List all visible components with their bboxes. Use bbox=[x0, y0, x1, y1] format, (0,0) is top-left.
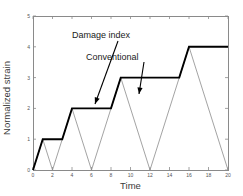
annotation-arrows bbox=[95, 41, 144, 104]
axis-ticks bbox=[33, 16, 228, 170]
x-tick-label: 0 bbox=[27, 172, 39, 178]
arrow-head-0 bbox=[95, 97, 100, 104]
x-tick-label: 14 bbox=[164, 172, 176, 178]
data-series bbox=[33, 47, 228, 170]
x-tick-label: 10 bbox=[125, 172, 137, 178]
x-axis-title: Time bbox=[33, 180, 228, 192]
y-tick-label: 2 bbox=[18, 105, 30, 111]
y-axis-title: Normalized strain bbox=[0, 0, 14, 196]
x-tick-label: 20 bbox=[222, 172, 234, 178]
y-tick-label: 3 bbox=[18, 75, 30, 81]
annotation-conventional: Conventional bbox=[86, 52, 139, 63]
chart-figure: Normalized strain Time Damage index Conv… bbox=[0, 0, 243, 196]
series-line-conventional bbox=[33, 47, 228, 170]
y-tick-label: 1 bbox=[18, 136, 30, 142]
y-tick-label: 5 bbox=[18, 13, 30, 19]
plot-frame bbox=[34, 17, 229, 171]
x-tick-label: 6 bbox=[86, 172, 98, 178]
x-tick-label: 18 bbox=[203, 172, 215, 178]
y-tick-label: 4 bbox=[18, 44, 30, 50]
x-tick-label: 4 bbox=[66, 172, 78, 178]
x-tick-label: 12 bbox=[144, 172, 156, 178]
x-tick-label: 16 bbox=[183, 172, 195, 178]
arrow-head-1 bbox=[137, 87, 142, 94]
annotation-damage-index: Damage index bbox=[72, 30, 130, 41]
axes-frame bbox=[34, 17, 229, 171]
x-tick-label: 2 bbox=[47, 172, 59, 178]
x-tick-label: 8 bbox=[105, 172, 117, 178]
